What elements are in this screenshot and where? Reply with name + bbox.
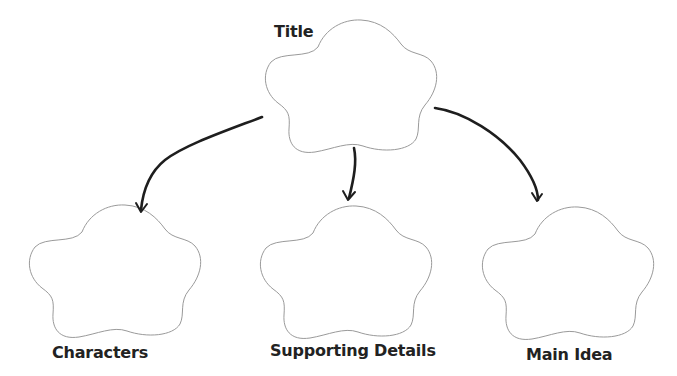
flower-shape-main-idea: [482, 207, 653, 340]
arrow-title-to-characters: [136, 117, 262, 212]
node-label-supporting-details: Supporting Details: [270, 343, 436, 359]
flower-shape-supporting-details: [260, 206, 431, 339]
flower-shape-characters: [29, 205, 200, 338]
node-label-characters: Characters: [52, 345, 148, 361]
diagram-canvas: [0, 0, 677, 376]
node-label-title: Title: [274, 24, 313, 40]
arrow-title-to-main-idea: [435, 108, 542, 201]
node-label-main-idea: Main Idea: [526, 347, 612, 363]
arrow-title-to-supporting-details: [343, 148, 355, 200]
